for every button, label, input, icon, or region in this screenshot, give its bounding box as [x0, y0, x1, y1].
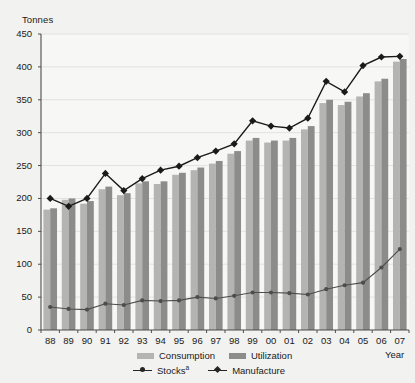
bar-consumption-88 — [43, 210, 50, 330]
y-axis-unit-label: Tonnes — [22, 14, 53, 25]
bar-utilization-02 — [308, 126, 315, 330]
bar-consumption-00 — [264, 143, 271, 330]
marker-stocks-01 — [287, 291, 291, 295]
marker-stocks-92 — [122, 303, 126, 307]
bar-consumption-95 — [172, 175, 179, 330]
bar-utilization-01 — [289, 138, 296, 330]
y-axis-tick-50: 50 — [8, 291, 32, 302]
marker-stocks-95 — [177, 298, 181, 302]
bar-consumption-07 — [393, 62, 400, 330]
bar-consumption-01 — [283, 141, 290, 330]
y-axis-tick-300: 300 — [8, 127, 32, 138]
y-axis-tick-350: 350 — [8, 94, 32, 105]
x-axis-tick-07: 07 — [389, 335, 411, 346]
bar-utilization-94 — [161, 181, 168, 330]
bar-consumption-97 — [209, 164, 216, 330]
bar-utilization-93 — [142, 181, 149, 330]
chart-container: Tonnes 050100150200250300350400450 88899… — [0, 0, 415, 383]
marker-stocks-94 — [159, 299, 163, 303]
marker-stocks-07 — [398, 247, 402, 251]
bar-consumption-06 — [375, 81, 382, 330]
y-axis-tick-150: 150 — [8, 225, 32, 236]
bar-consumption-02 — [301, 129, 308, 330]
bar-consumption-98 — [227, 154, 234, 330]
bar-consumption-04 — [338, 105, 345, 330]
legend-label-stocks: Stocksa — [157, 364, 189, 376]
legend-marker-manufacture — [208, 367, 227, 374]
bar-consumption-93 — [135, 183, 142, 330]
bar-utilization-88 — [50, 208, 57, 330]
y-axis-tick-400: 400 — [8, 61, 32, 72]
bar-consumption-05 — [356, 96, 363, 330]
marker-stocks-97 — [214, 296, 218, 300]
bar-utilization-05 — [363, 93, 370, 330]
bar-utilization-99 — [253, 138, 260, 330]
y-axis-tick-0: 0 — [8, 324, 32, 335]
marker-stocks-88 — [48, 305, 52, 309]
legend-label-stocks-superscript: a — [186, 364, 190, 371]
marker-stocks-98 — [232, 294, 236, 298]
marker-stocks-04 — [343, 283, 347, 287]
legend-swatch-consumption — [137, 353, 154, 359]
bar-utilization-95 — [179, 173, 186, 330]
legend-label-stocks-text: Stocks — [157, 365, 186, 376]
legend-swatch-utilization — [229, 353, 246, 359]
bar-utilization-91 — [105, 187, 112, 330]
marker-stocks-91 — [103, 302, 107, 306]
bar-utilization-97 — [216, 161, 223, 330]
legend-row-bars: Consumption Utilization — [137, 350, 292, 361]
bar-utilization-96 — [197, 168, 204, 330]
marker-stocks-03 — [324, 287, 328, 291]
legend-label-utilization: Utilization — [251, 350, 292, 361]
bar-consumption-03 — [319, 103, 326, 330]
bar-consumption-99 — [246, 141, 253, 330]
bar-utilization-06 — [381, 79, 388, 330]
bar-utilization-92 — [124, 193, 131, 330]
marker-stocks-02 — [306, 292, 310, 296]
chart-plot-area — [0, 0, 415, 383]
legend-label-manufacture: Manufacture — [232, 365, 285, 376]
legend-label-consumption: Consumption — [159, 350, 215, 361]
bar-utilization-98 — [234, 151, 241, 330]
bar-utilization-03 — [326, 100, 333, 330]
bar-consumption-92 — [117, 195, 124, 330]
legend-marker-stocks — [133, 367, 152, 374]
bar-utilization-07 — [400, 59, 407, 330]
marker-stocks-00 — [269, 290, 273, 294]
y-axis-tick-200: 200 — [8, 192, 32, 203]
marker-stocks-96 — [195, 295, 199, 299]
marker-stocks-05 — [361, 281, 365, 285]
marker-stocks-90 — [85, 308, 89, 312]
y-axis-tick-250: 250 — [8, 160, 32, 171]
marker-stocks-99 — [251, 290, 255, 294]
marker-stocks-93 — [140, 298, 144, 302]
bar-consumption-96 — [191, 170, 198, 330]
bar-consumption-94 — [154, 184, 161, 330]
legend-row-lines: Stocksa Manufacture — [133, 364, 285, 376]
y-axis-tick-450: 450 — [8, 28, 32, 39]
bar-consumption-91 — [99, 189, 106, 330]
marker-stocks-06 — [379, 265, 383, 269]
y-axis-tick-100: 100 — [8, 258, 32, 269]
x-axis-title: Year — [385, 349, 404, 360]
marker-stocks-89 — [67, 307, 71, 311]
bar-utilization-04 — [345, 102, 352, 330]
bar-utilization-00 — [271, 141, 278, 330]
